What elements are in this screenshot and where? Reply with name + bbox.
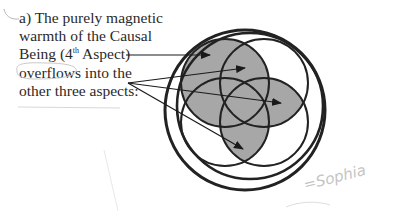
handwritten-annotation: =Sophia bbox=[302, 161, 368, 194]
pencil-oval-mark bbox=[17, 63, 76, 79]
pencil-stroke-bottom bbox=[286, 202, 330, 207]
shaded-lenses bbox=[145, 39, 308, 202]
pencil-hook-mark bbox=[4, 9, 19, 19]
venn-diagram: =Sophia bbox=[0, 0, 408, 211]
pencil-underline bbox=[18, 107, 120, 108]
pencil-stroke bbox=[104, 150, 118, 211]
